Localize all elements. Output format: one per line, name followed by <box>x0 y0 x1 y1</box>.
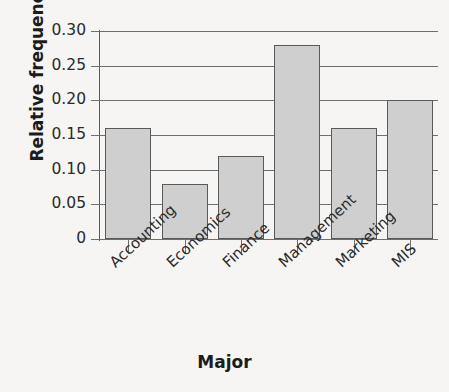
gridline <box>100 31 438 32</box>
y-tick-mark <box>91 204 100 205</box>
x-tick-label: MIS <box>388 240 420 272</box>
bar-chart-figure: Relative frequency 0.300.250.200.150.100… <box>0 0 449 392</box>
y-tick-label: 0 <box>26 229 86 247</box>
y-tick-mark <box>91 170 100 171</box>
y-tick-mark <box>91 239 100 240</box>
y-tick-label: 0.15 <box>26 125 86 143</box>
y-tick-label: 0.10 <box>26 160 86 178</box>
x-axis-title: Major <box>0 352 449 372</box>
y-tick-mark <box>91 31 100 32</box>
y-tick-label: 0.05 <box>26 194 86 212</box>
y-tick-mark <box>91 135 100 136</box>
gridline <box>100 66 438 67</box>
y-tick-mark <box>91 66 100 67</box>
bar <box>274 45 320 239</box>
y-tick-mark <box>91 100 100 101</box>
y-tick-label: 0.25 <box>26 56 86 74</box>
y-tick-label: 0.20 <box>26 90 86 108</box>
y-tick-label: 0.30 <box>26 21 86 39</box>
